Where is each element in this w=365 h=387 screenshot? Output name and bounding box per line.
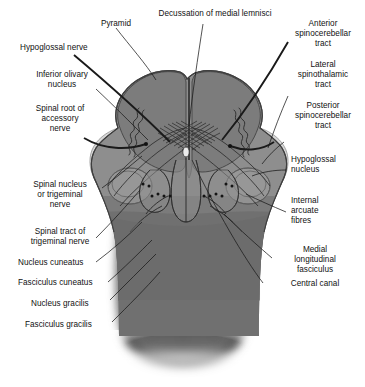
label-anterior-spinocerebellar-tract: Anterior spinocerebellar tract (283, 19, 363, 50)
label-hypoglossal-nerve: Hypoglossal nerve (20, 43, 130, 53)
label-posterior-spinocerebellar-tract: Posterior spinocerebellar tract (283, 101, 363, 132)
label-spinal-root-of-accessory-nerve: Spinal root of accessory nerve (10, 104, 110, 135)
label-pyramid: Pyramid (78, 19, 154, 29)
label-spinal-nucleus-or-trigeminal-nerve: Spinal nucleus or trigeminal nerve (8, 180, 112, 211)
label-spinal-tract-of-trigeminal-nerve: Spinal tract of trigeminal nerve (8, 227, 112, 247)
label-central-canal: Central canal (270, 279, 360, 289)
label-nucleus-gracilis: Nucleus gracilis (31, 299, 131, 309)
label-fasciculus-gracilis: Fasciculus gracilis (25, 320, 135, 330)
label-fasciculus-cuneatus: Fasciculus cuneatus (18, 278, 128, 288)
label-nucleus-cuneatus: Nucleus cuneatus (18, 258, 118, 268)
figure-canvas: Pyramid Decussation of medial lemnisci A… (0, 0, 365, 387)
leader-pyramid (116, 28, 156, 80)
label-inferior-olivary-nucleus: Inferior olivary nucleus (12, 70, 112, 90)
label-hypoglossal-nucleus: Hypoglossal nucleus (291, 155, 365, 175)
label-decussation-of-medial-lemnisci: Decussation of medial lemnisci (142, 9, 288, 19)
label-internal-arcuate-fibres: Internal arcuate fibres (291, 196, 365, 227)
label-medial-longitudinal-fasciculus: Medial longitudinal fasciculus (275, 245, 355, 276)
central-canal (183, 147, 189, 157)
label-lateral-spinothalamic-tract: Lateral spinothalamic tract (283, 60, 363, 91)
